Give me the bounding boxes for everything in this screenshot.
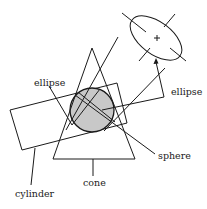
label-ellipse-left: ellipse — [34, 77, 66, 88]
construction-line — [104, 68, 165, 131]
leader-ellipse-left — [49, 86, 72, 125]
arrowhead-icon — [154, 58, 159, 64]
axis-tick — [170, 48, 186, 61]
sphere-shape — [70, 88, 114, 132]
label-cone: cone — [83, 177, 106, 188]
axis-tick — [164, 14, 175, 27]
diagram-canvas: ellipse ellipse sphere cone cylinder — [0, 0, 207, 209]
label-cylinder: cylinder — [15, 188, 55, 199]
leader-cylinder — [31, 148, 35, 185]
label-ellipse-right: ellipse — [171, 86, 203, 97]
label-sphere: sphere — [158, 150, 191, 161]
